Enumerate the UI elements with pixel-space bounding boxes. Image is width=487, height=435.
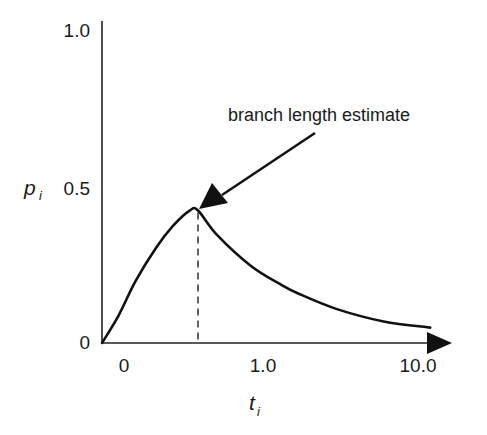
y-axis-label-subscript: i [39,188,43,203]
x-axis-label: t [249,391,256,414]
chart: 1.0 0.5 0 p i 0 1.0 10.0 t i branch leng… [0,0,487,435]
annotation-label: branch length estimate [228,105,410,125]
annotation-arrowhead [199,183,228,209]
series-line [102,208,430,343]
y-tick-label-0-5: 0.5 [64,178,90,199]
x-tick-label-10: 10.0 [400,355,437,376]
x-axis-arrowhead [427,332,452,354]
y-axis-label: p [23,176,36,199]
y-tick-label-0: 0 [79,332,90,353]
x-tick-label-0: 0 [119,355,130,376]
annotation-arrow-shaft [222,133,315,195]
y-tick-label-1: 1.0 [64,20,90,41]
x-tick-label-1: 1.0 [250,355,276,376]
x-axis-label-subscript: i [257,404,261,419]
